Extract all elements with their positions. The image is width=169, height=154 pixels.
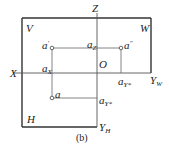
label-y-w: YW xyxy=(150,75,162,88)
figure-caption: (b) xyxy=(76,133,88,143)
label-y-h: YH xyxy=(99,122,110,135)
point-a-double-prime xyxy=(119,46,123,50)
label-plane-w: W xyxy=(140,23,149,34)
label-a-x: aX xyxy=(42,63,52,76)
label-a-double-prime: a" xyxy=(124,40,132,51)
axes xyxy=(13,13,151,127)
label-z-axis: Z xyxy=(92,3,98,14)
point-a-prime xyxy=(50,46,54,50)
label-a-y-h: aY* xyxy=(99,95,112,108)
label-a: a xyxy=(55,89,61,100)
label-origin: O xyxy=(99,59,107,70)
label-plane-v: V xyxy=(26,23,33,34)
label-a-y-w: aY* xyxy=(118,76,131,89)
label-a-prime: a' xyxy=(42,40,49,51)
point-a xyxy=(50,96,54,100)
label-a-z: aZ xyxy=(87,39,96,52)
label-x-axis: X xyxy=(10,68,17,79)
label-plane-h: H xyxy=(27,114,35,125)
